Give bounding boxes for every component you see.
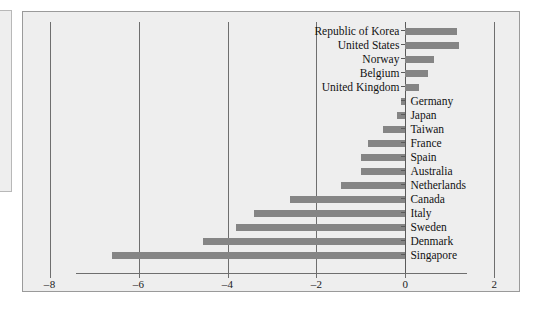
category-label: France [410,136,441,150]
bar-row: Italy [23,207,519,221]
category-label: United Kingdom [322,80,400,94]
bar[interactable] [405,70,427,77]
category-tick [401,72,405,73]
category-label: United States [338,38,400,52]
bar-row: Singapore [23,249,519,263]
bar-row: Norway [23,53,519,67]
bar-row: Denmark [23,235,519,249]
x-axis-tick-label: –6 [133,278,145,290]
adjacent-figure-partial-box [0,10,12,192]
category-tick [401,100,405,101]
category-label: Norway [362,52,399,66]
category-tick [401,30,405,31]
bar[interactable] [405,28,456,35]
category-label: Italy [410,206,431,220]
x-axis-tick-label: –4 [222,278,234,290]
bar-row: Spain [23,151,519,165]
category-tick [401,254,405,255]
bar[interactable] [368,140,406,147]
x-axis-tick-label: –8 [44,278,56,290]
bar-row: Taiwan [23,123,519,137]
category-tick [401,212,405,213]
bar[interactable] [405,42,458,49]
category-label: Japan [410,108,436,122]
bar-row: France [23,137,519,151]
category-tick [401,226,405,227]
bar-row: Germany [23,95,519,109]
category-label: Australia [410,164,452,178]
category-tick [401,128,405,129]
plot-area: –8–6–4–202 Republic of KoreaUnited State… [23,12,519,291]
category-label: Republic of Korea [314,24,399,38]
bar-row: United Kingdom [23,81,519,95]
x-axis-tick-label: 0 [402,278,408,290]
x-axis-tick-label: 2 [491,278,497,290]
category-label: Spain [410,150,436,164]
bar[interactable] [112,252,405,259]
bar-row: Republic of Korea [23,25,519,39]
category-tick [401,156,405,157]
bar-row: Australia [23,165,519,179]
bar[interactable] [405,56,434,63]
bar[interactable] [405,84,418,91]
bar-row: Sweden [23,221,519,235]
x-axis-line [76,273,467,274]
bar[interactable] [203,238,405,245]
category-tick [401,44,405,45]
bar[interactable] [236,224,405,231]
category-tick [401,198,405,199]
bar[interactable] [254,210,405,217]
category-label: Singapore [410,248,457,262]
bar-row: Belgium [23,67,519,81]
x-axis-tick-label: –2 [311,278,323,290]
category-label: Canada [410,192,444,206]
category-label: Taiwan [410,122,444,136]
bar[interactable] [361,154,405,161]
bar-row: Netherlands [23,179,519,193]
category-label: Germany [410,94,453,108]
bar-row: United States [23,39,519,53]
bar[interactable] [361,168,405,175]
category-tick [401,240,405,241]
category-label: Denmark [410,234,453,248]
category-tick [401,114,405,115]
category-tick [401,184,405,185]
bar-row: Canada [23,193,519,207]
category-label: Netherlands [410,178,466,192]
category-label: Belgium [360,66,400,80]
chart-frame: –8–6–4–202 Republic of KoreaUnited State… [22,11,520,292]
category-tick [401,142,405,143]
bar[interactable] [341,182,405,189]
category-tick [401,170,405,171]
category-label: Sweden [410,220,446,234]
category-tick [401,58,405,59]
bar-row: Japan [23,109,519,123]
category-tick [401,86,405,87]
bar[interactable] [290,196,406,203]
